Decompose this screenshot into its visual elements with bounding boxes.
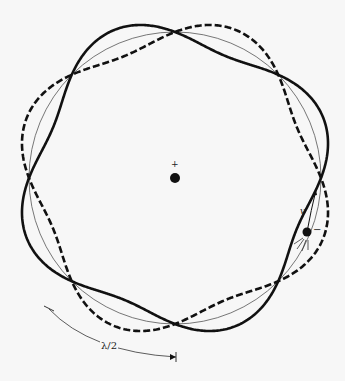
diagram-canvas [0,0,345,381]
nucleus-charge-label: + [171,159,179,169]
half-wavelength-label: λ/2 [100,340,118,351]
arc-arrowhead-icon [170,354,176,360]
nucleus-dot [170,173,180,183]
standing-wave-diagram: + − v λ/2 [0,0,345,381]
arc-tick-start [44,306,54,311]
electron-charge-label: − [313,224,321,235]
radiation-lines-icon [294,238,308,251]
velocity-label: v [300,206,305,216]
